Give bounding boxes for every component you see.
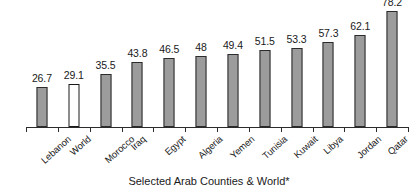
bar[interactable] bbox=[100, 74, 111, 127]
bar-value-label: 57.3 bbox=[318, 28, 338, 39]
bar[interactable] bbox=[355, 35, 366, 127]
bar-value-label: 35.5 bbox=[96, 60, 116, 71]
bar-group: 48 bbox=[186, 8, 216, 127]
x-axis-tick bbox=[90, 127, 91, 132]
bar-value-label: 49.4 bbox=[223, 40, 243, 51]
x-axis-category-label: Jordan bbox=[356, 134, 384, 160]
bar[interactable] bbox=[196, 56, 207, 127]
bar[interactable] bbox=[323, 42, 334, 127]
bar[interactable] bbox=[291, 48, 302, 127]
bar[interactable] bbox=[227, 54, 238, 127]
x-axis-category-label: Egypt bbox=[163, 134, 187, 157]
bar-group: 35.5 bbox=[91, 8, 121, 127]
bar-value-label: 51.5 bbox=[255, 36, 275, 47]
x-axis-category-label: Morocco bbox=[103, 134, 136, 165]
x-axis-tick bbox=[408, 127, 409, 132]
x-axis-category-label: Algeria bbox=[196, 134, 224, 161]
bar-value-label: 43.8 bbox=[127, 48, 147, 59]
x-axis-tick bbox=[185, 127, 186, 132]
bar[interactable] bbox=[387, 11, 398, 127]
bar-group: 53.3 bbox=[282, 8, 312, 127]
x-axis-tick bbox=[281, 127, 282, 132]
bar-value-label: 46.5 bbox=[159, 44, 179, 55]
x-axis-tick bbox=[122, 127, 123, 132]
bar-value-label: 78.2 bbox=[382, 0, 402, 8]
bar-chart: 26.729.135.543.846.54849.451.553.357.362… bbox=[0, 0, 418, 194]
bar-group: 78.2 bbox=[377, 8, 407, 127]
x-axis-tick bbox=[249, 127, 250, 132]
bar-group: 43.8 bbox=[122, 8, 152, 127]
x-axis-category-label: Tunisia bbox=[260, 134, 289, 161]
x-axis-title: Selected Arab Counties & World* bbox=[0, 175, 418, 188]
bar-group: 26.7 bbox=[27, 8, 57, 127]
x-axis-tick bbox=[58, 127, 59, 132]
x-axis-tick bbox=[153, 127, 154, 132]
x-axis-category-label: World bbox=[68, 134, 93, 158]
x-axis-tick bbox=[26, 127, 27, 132]
bar-group: 29.1 bbox=[59, 8, 89, 127]
bar-value-label: 26.7 bbox=[32, 73, 52, 84]
x-axis-tick bbox=[217, 127, 218, 132]
bar[interactable] bbox=[259, 50, 270, 127]
x-axis-category-label: Libya bbox=[322, 134, 345, 156]
bar-group: 62.1 bbox=[345, 8, 375, 127]
bar-group: 49.4 bbox=[218, 8, 248, 127]
plot-area: 26.729.135.543.846.54849.451.553.357.362… bbox=[26, 8, 408, 127]
x-axis-tick bbox=[313, 127, 314, 132]
x-axis-category-label: Qatar bbox=[386, 134, 410, 157]
bar-group: 46.5 bbox=[154, 8, 184, 127]
bar[interactable] bbox=[36, 87, 47, 127]
bar-value-label: 48 bbox=[195, 42, 206, 53]
bar-group: 51.5 bbox=[250, 8, 280, 127]
bar[interactable] bbox=[164, 58, 175, 127]
bar-value-label: 53.3 bbox=[287, 34, 307, 45]
x-axis-category-label: Kuwait bbox=[292, 134, 319, 160]
bar[interactable] bbox=[132, 62, 143, 127]
bar-group: 57.3 bbox=[313, 8, 343, 127]
x-axis-category-label: Yemen bbox=[228, 134, 256, 161]
bar[interactable] bbox=[68, 84, 79, 127]
bar-value-label: 62.1 bbox=[350, 21, 370, 32]
x-axis-tick bbox=[344, 127, 345, 132]
x-axis-tick bbox=[376, 127, 377, 132]
bar-value-label: 29.1 bbox=[64, 70, 84, 81]
